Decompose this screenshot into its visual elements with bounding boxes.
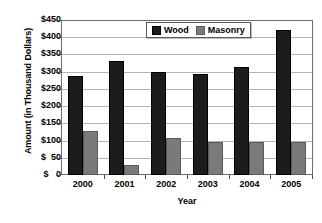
x-tick-label-2005: 2005: [271, 179, 311, 189]
bar-wood-2000: [68, 76, 83, 175]
y-tick-mark: [56, 72, 61, 73]
y-tick-mark: [56, 175, 61, 176]
x-tick-label-2003: 2003: [188, 179, 228, 189]
y-tick-label: $150: [9, 117, 61, 127]
y-tick-label: $250: [9, 83, 61, 93]
legend-swatch-masonry-icon: [196, 26, 205, 35]
bar-group: [229, 20, 271, 175]
x-tick-label-2001: 2001: [105, 179, 145, 189]
y-tick-label: $ 50: [9, 152, 61, 162]
bar-masonry-2003: [208, 142, 223, 175]
legend-entry-masonry: Masonry: [196, 25, 245, 35]
bar-group: [187, 20, 229, 175]
bar-masonry-2005: [291, 142, 306, 175]
legend-swatch-wood-icon: [152, 26, 161, 35]
chart-legend: Wood Masonry: [146, 22, 251, 38]
bar-wood-2001: [109, 61, 124, 175]
bar-group: [104, 20, 146, 175]
y-tick-mark: [56, 123, 61, 124]
bar-wood-2003: [193, 74, 208, 175]
y-tick-mark: [56, 20, 61, 21]
y-tick-label: $300: [9, 66, 61, 76]
y-tick-mark: [56, 106, 61, 107]
legend-label-masonry: Masonry: [208, 25, 245, 35]
bar-group: [270, 20, 312, 175]
bar-group: [62, 20, 104, 175]
x-tick-label-2000: 2000: [63, 179, 103, 189]
y-tick-mark: [56, 158, 61, 159]
x-tick-mark: [312, 175, 313, 179]
y-tick-label: $200: [9, 100, 61, 110]
bar-masonry-2001: [124, 165, 139, 175]
y-tick-label: $350: [9, 48, 61, 58]
y-tick-mark: [56, 37, 61, 38]
y-tick-mark: [56, 54, 61, 55]
y-tick-mark: [56, 141, 61, 142]
y-tick-label: $400: [9, 31, 61, 41]
bar-wood-2004: [234, 67, 249, 176]
x-tick-label-2002: 2002: [146, 179, 186, 189]
bar-masonry-2004: [249, 142, 264, 175]
bar-group: [145, 20, 187, 175]
y-tick-mark: [56, 89, 61, 90]
x-tick-label-2004: 2004: [230, 179, 270, 189]
bars-layer: [62, 20, 312, 175]
bar-wood-2005: [276, 30, 291, 175]
bar-masonry-2002: [166, 138, 181, 175]
y-tick-label: $450: [9, 14, 61, 24]
legend-entry-wood: Wood: [152, 25, 189, 35]
y-tick-label: $ 0: [9, 169, 61, 179]
bar-wood-2002: [151, 72, 166, 175]
legend-label-wood: Wood: [164, 25, 189, 35]
bar-masonry-2000: [83, 131, 98, 175]
bar-chart: Amount (in Thousand Dollars) $450$400$35…: [0, 0, 322, 223]
x-axis-title: Year: [61, 196, 313, 206]
y-tick-label: $100: [9, 135, 61, 145]
